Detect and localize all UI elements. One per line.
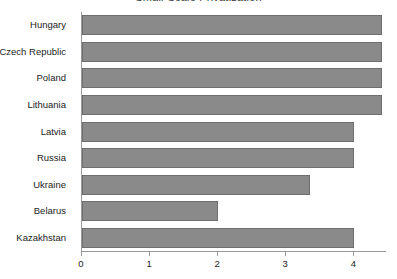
bar-poland — [82, 68, 382, 88]
bar-fill — [82, 148, 354, 168]
x-tick-label-1: 1 — [134, 258, 164, 269]
bar-hungary — [82, 15, 382, 35]
x-tick-label-3: 3 — [270, 258, 300, 269]
bar-russia — [82, 148, 354, 168]
bar-fill — [82, 15, 382, 35]
category-label-hungary: Hungary — [0, 15, 66, 35]
category-label-belarus: Belarus — [0, 201, 66, 221]
x-tick-label-0: 0 — [66, 258, 96, 269]
bar-fill — [82, 201, 218, 221]
bar-kazakhstan — [82, 228, 354, 248]
bar-fill — [82, 68, 382, 88]
x-tick-0 — [81, 251, 82, 256]
x-tick-3 — [285, 251, 286, 256]
bar-latvia — [82, 122, 354, 142]
bar-belarus — [82, 201, 218, 221]
bar-fill — [82, 175, 310, 195]
category-label-latvia: Latvia — [0, 122, 66, 142]
bar-fill — [82, 42, 382, 62]
category-label-lithuania: Lithuania — [0, 95, 66, 115]
category-label-czech-republic: Czech Republic — [0, 42, 66, 62]
x-tick-1 — [149, 251, 150, 256]
category-label-ukraine: Ukraine — [0, 175, 66, 195]
x-tick-label-2: 2 — [202, 258, 232, 269]
chart-title: Small-Scale Privatization — [0, 0, 397, 3]
x-tick-2 — [217, 251, 218, 256]
bar-lithuania — [82, 95, 382, 115]
category-label-poland: Poland — [0, 68, 66, 88]
bar-fill — [82, 228, 354, 248]
bar-ukraine — [82, 175, 310, 195]
bar-fill — [82, 122, 354, 142]
x-axis-line — [81, 251, 386, 252]
bar-czech-republic — [82, 42, 382, 62]
category-label-russia: Russia — [0, 148, 66, 168]
x-tick-label-4: 4 — [338, 258, 368, 269]
bar-fill — [82, 95, 382, 115]
category-label-kazakhstan: Kazakhstan — [0, 228, 66, 248]
bar-chart: Small-Scale Privatization HungaryCzech R… — [0, 0, 397, 279]
plot-area: HungaryCzech RepublicPolandLithuaniaLatv… — [81, 12, 386, 251]
x-tick-4 — [353, 251, 354, 256]
